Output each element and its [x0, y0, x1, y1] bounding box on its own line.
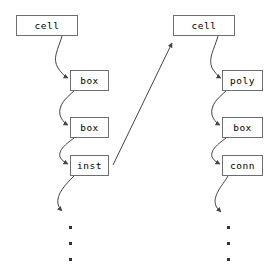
ellipsis-dot-left-2 — [69, 242, 72, 245]
node-label: box — [80, 123, 99, 133]
node-right-box[interactable]: box — [222, 117, 263, 138]
ellipsis-dot-left-1 — [69, 226, 72, 229]
ellipsis-dot-left-3 — [69, 258, 72, 261]
node-label: inst — [77, 161, 102, 171]
connector-left-cell-to-box1 — [55, 36, 68, 78]
node-right-poly[interactable]: poly — [222, 70, 263, 91]
node-label: box — [233, 123, 252, 133]
node-right-cell[interactable]: cell — [173, 15, 235, 36]
node-left-box-1[interactable]: box — [70, 70, 109, 91]
connector-right-cell-to-poly — [211, 36, 221, 78]
node-left-inst[interactable]: inst — [70, 155, 109, 176]
ellipsis-dot-right-2 — [227, 242, 230, 245]
connector-left-inst-to-ellipsis — [58, 176, 74, 211]
node-left-box-2[interactable]: box — [70, 117, 109, 138]
ellipsis-dot-right-1 — [227, 226, 230, 229]
node-left-cell[interactable]: cell — [16, 15, 78, 36]
connector-right-conn-to-ellipsis — [215, 176, 228, 212]
node-label: cell — [192, 21, 217, 31]
node-label: cell — [35, 21, 60, 31]
node-right-conn[interactable]: conn — [222, 155, 263, 176]
node-label: conn — [230, 161, 255, 171]
node-label: box — [80, 76, 99, 86]
ellipsis-dot-right-3 — [227, 258, 230, 261]
diagram-canvas: cell box box inst cell poly box conn — [0, 0, 276, 276]
connector-inst-to-right-cell — [113, 43, 172, 165]
connector-layer — [0, 0, 276, 276]
node-label: poly — [230, 76, 255, 86]
